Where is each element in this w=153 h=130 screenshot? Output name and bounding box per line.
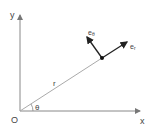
radius-line	[20, 58, 102, 111]
e-r-label: er	[130, 43, 136, 51]
e-theta-label: eθ	[88, 29, 95, 37]
e-theta-vector	[87, 37, 102, 58]
e-r-vector	[102, 42, 127, 58]
polar-diagram: y x O θ r eθ er	[0, 0, 153, 130]
angle-arc	[31, 104, 33, 111]
x-axis-label: x	[140, 116, 145, 126]
y-axis-label: y	[10, 10, 15, 20]
point	[100, 56, 104, 60]
radius-label: r	[53, 79, 56, 88]
angle-label: θ	[35, 103, 40, 112]
origin-label: O	[11, 115, 18, 125]
